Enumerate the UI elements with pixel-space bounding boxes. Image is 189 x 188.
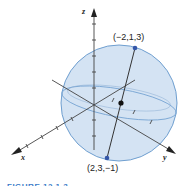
y-axis-arrow-icon — [166, 146, 176, 154]
point-bottom — [105, 156, 110, 161]
point-bottom-label: (2,3,−1) — [87, 163, 118, 173]
z-axis-label: z — [82, 7, 85, 16]
x-axis-label: x — [21, 153, 25, 162]
center-point — [118, 100, 123, 105]
point-top — [133, 46, 138, 51]
z-axis-arrow-icon — [91, 8, 97, 17]
y-axis-label: y — [163, 153, 167, 162]
point-top-label: (−2,1,3) — [113, 32, 144, 42]
sphere-diagram — [0, 0, 189, 188]
figure-caption: FIGURE 12.1.3 — [7, 181, 68, 186]
